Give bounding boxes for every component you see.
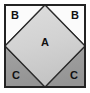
label-triangle-c-bottom-right: C <box>70 69 78 81</box>
geometric-figure: B B A C C <box>0 0 90 93</box>
figure-canvas: B B A C C <box>0 0 90 93</box>
label-triangle-b-top-right: B <box>71 9 79 21</box>
label-triangle-c-bottom-left: C <box>12 69 20 81</box>
label-triangle-b-top-left: B <box>11 9 19 21</box>
label-diamond-a: A <box>41 36 49 48</box>
